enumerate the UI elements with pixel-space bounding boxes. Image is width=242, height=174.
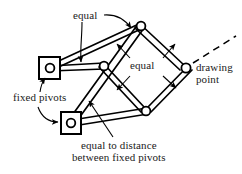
linkage-bars xyxy=(50,23,192,126)
label-drawing-point: drawing point xyxy=(196,62,233,86)
joint-middle xyxy=(100,62,109,71)
label-equal-middle: equal xyxy=(130,60,154,72)
leader-equal-distance xyxy=(89,101,113,137)
fixed-pivot-upper xyxy=(39,57,60,79)
joint-drawing-point xyxy=(181,63,190,72)
label-drawing-point-line1: drawing xyxy=(196,61,233,73)
leader-equal-mid-downleft xyxy=(117,76,130,90)
joint-top xyxy=(137,22,146,31)
fixed-pivot-lower xyxy=(61,112,81,134)
label-drawing-point-line2: point xyxy=(196,74,233,86)
label-equal-distance-line2: between fixed pivots xyxy=(72,152,166,164)
label-equal-top: equal xyxy=(73,10,97,22)
label-equal-distance-line1: equal to distance xyxy=(81,139,157,151)
pantograph-diagram: equal equal drawing point fixed pivots e… xyxy=(0,0,242,174)
leader-fixed-pivots-lower xyxy=(38,107,58,122)
drawing-path-ray xyxy=(193,36,236,63)
leader-equal-mid-downright xyxy=(163,76,176,88)
joint-bottom xyxy=(142,107,151,116)
label-equal-distance: equal to distance between fixed pivots xyxy=(72,140,166,164)
leader-equal-top-curved xyxy=(104,15,131,28)
leader-fixed-pivots-upper xyxy=(40,78,45,92)
label-fixed-pivots: fixed pivots xyxy=(13,92,66,104)
